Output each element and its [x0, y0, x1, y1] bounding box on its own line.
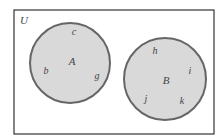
set-a-label: A — [68, 55, 76, 67]
venn-diagram: U A c b g B h i j k — [0, 0, 221, 140]
element-b: b — [44, 65, 49, 76]
element-g: g — [95, 70, 100, 81]
element-i: i — [189, 65, 192, 76]
set-a: A c b g — [30, 23, 110, 103]
set-b-label: B — [163, 74, 170, 86]
element-h: h — [153, 45, 158, 56]
element-k: k — [180, 95, 185, 106]
element-c: c — [72, 26, 77, 37]
set-b: B h i j k — [124, 38, 206, 120]
universe-label: U — [20, 14, 29, 26]
